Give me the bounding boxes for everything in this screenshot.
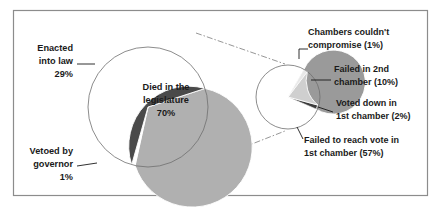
label-enacted-into-law-line1: Enacted: [37, 43, 73, 53]
label-failed-2nd-chamber-line1: Failed in 2nd: [334, 64, 389, 74]
label-vetoed-by-governor: Vetoed by governor 1%: [30, 146, 74, 182]
label-failed-to-reach-vote-line1: Failed to reach vote in: [304, 135, 399, 145]
label-chambers-couldnt-compromise-line2: compromise (1%): [308, 40, 383, 50]
label-failed-to-reach-vote: Failed to reach vote in 1st chamber (57%…: [304, 135, 399, 158]
label-failed-2nd-chamber-line2: chamber (10%): [334, 77, 398, 87]
label-died-in-legislature-line1: Died in the: [143, 82, 190, 92]
label-enacted-into-law: Enacted into law 29%: [37, 43, 74, 79]
callout-connector-top: [196, 33, 285, 64]
label-died-in-legislature-line2: legislature: [143, 95, 189, 105]
leader-chambers-couldnt-compromise: [299, 49, 308, 59]
label-vetoed-by-governor-line2: governor: [33, 159, 73, 169]
main-slice-died-in-legislature[interactable]: [135, 88, 252, 207]
leader-vetoed-by-governor: [77, 163, 97, 166]
label-voted-down-1st-chamber-line2: 1st chamber (2%): [336, 111, 411, 121]
pie-chart-figure: Enacted into law 29% Vetoed by governor …: [0, 0, 444, 215]
label-vetoed-by-governor-line1: Vetoed by: [30, 146, 74, 156]
label-enacted-into-law-line3: 29%: [55, 69, 73, 79]
label-voted-down-1st-chamber-line1: Voted down in: [336, 98, 397, 108]
label-enacted-into-law-line2: into law: [39, 56, 74, 66]
chart-canvas: Enacted into law 29% Vetoed by governor …: [0, 0, 444, 215]
label-failed-to-reach-vote-line2: 1st chamber (57%): [304, 148, 384, 158]
label-died-in-legislature-line3: 70%: [157, 108, 175, 118]
label-chambers-couldnt-compromise-line1: Chambers couldn't: [308, 27, 389, 37]
label-vetoed-by-governor-line3: 1%: [60, 172, 73, 182]
leader-failed-to-reach-vote: [297, 127, 303, 139]
label-chambers-couldnt-compromise: Chambers couldn't compromise (1%): [308, 27, 389, 50]
